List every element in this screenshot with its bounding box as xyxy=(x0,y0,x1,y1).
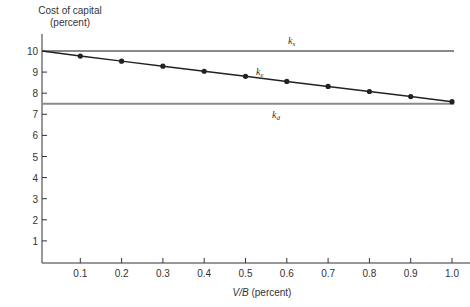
data-point-marker xyxy=(326,84,331,89)
x-tick-label: 0.2 xyxy=(115,268,129,279)
y-axis-ticks: 12345678910 xyxy=(27,46,47,247)
data-point-marker xyxy=(160,64,165,69)
kd-label: kd xyxy=(272,109,280,122)
x-axis-ticks: 0.10.20.30.40.50.60.70.80.91.0 xyxy=(73,258,459,279)
x-tick-label: 1.0 xyxy=(445,268,459,279)
y-tick-label: 9 xyxy=(32,67,38,78)
y-tick-label: 5 xyxy=(32,152,38,163)
data-point-marker xyxy=(284,79,289,84)
data-point-marker xyxy=(408,94,413,99)
data-point-marker xyxy=(243,74,248,79)
cost-of-capital-chart: Cost of capital (percent) 12345678910 0.… xyxy=(0,0,470,307)
y-tick-label: 6 xyxy=(32,130,38,141)
data-point-marker xyxy=(367,89,372,94)
ks-label: ks xyxy=(288,35,295,48)
data-point-marker xyxy=(202,69,207,74)
x-tick-label: 0.9 xyxy=(404,268,418,279)
y-tick-label: 1 xyxy=(32,236,38,247)
series-layer xyxy=(42,51,455,104)
y-axis-title-line1: Cost of capital xyxy=(38,5,101,16)
x-tick-label: 0.7 xyxy=(321,268,335,279)
y-tick-label: 3 xyxy=(32,194,38,205)
x-tick-label: 0.8 xyxy=(362,268,376,279)
x-tick-label: 0.1 xyxy=(73,268,87,279)
x-axis-title: V/B (percent) xyxy=(233,287,292,298)
y-tick-label: 7 xyxy=(32,109,38,120)
y-tick-label: 4 xyxy=(32,173,38,184)
x-tick-label: 0.3 xyxy=(156,268,170,279)
data-point-marker xyxy=(449,99,454,104)
x-tick-label: 0.5 xyxy=(239,268,253,279)
data-point-marker xyxy=(78,53,83,58)
y-tick-label: 2 xyxy=(32,215,38,226)
y-axis-title-line2: (percent) xyxy=(50,17,90,28)
x-tick-label: 0.6 xyxy=(280,268,294,279)
data-point-marker xyxy=(119,59,124,64)
y-tick-label: 10 xyxy=(27,46,39,57)
x-tick-label: 0.4 xyxy=(197,268,211,279)
y-tick-label: 8 xyxy=(32,88,38,99)
